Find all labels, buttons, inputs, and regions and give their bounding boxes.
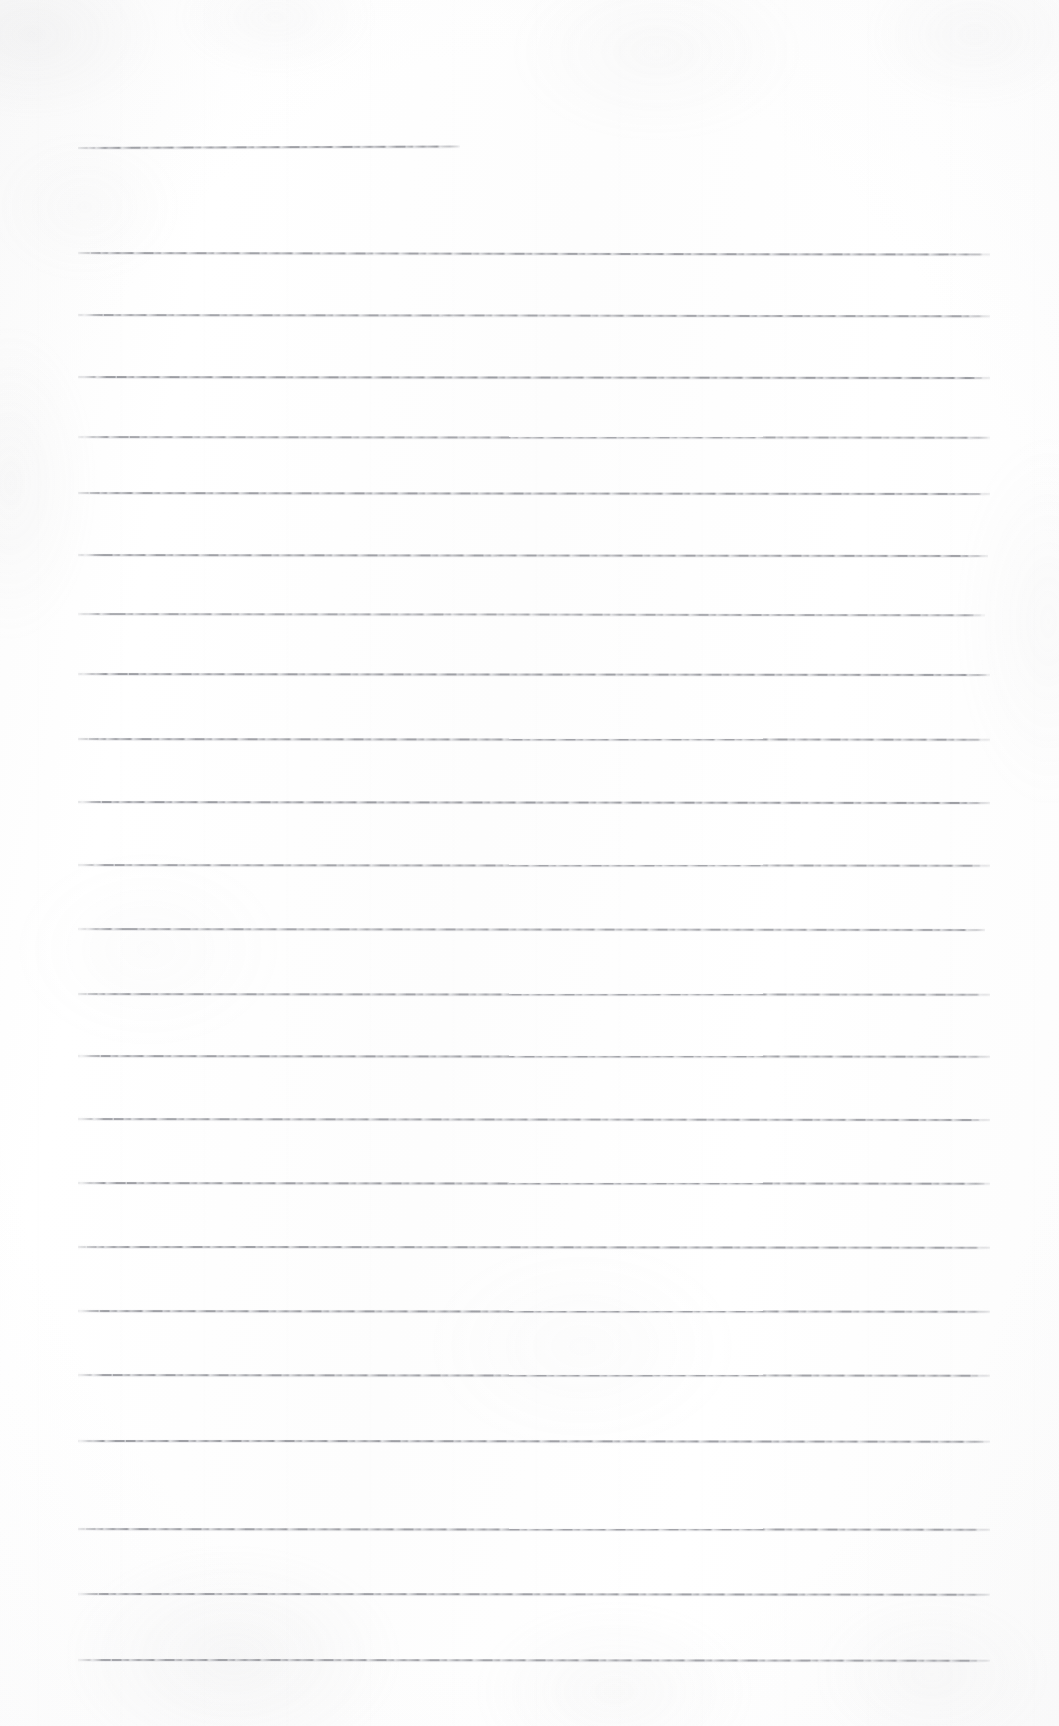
ruled-line bbox=[78, 1055, 990, 1058]
ruled-line bbox=[78, 1440, 990, 1443]
ruled-line bbox=[78, 314, 990, 317]
ruled-line bbox=[78, 1593, 990, 1596]
rule-left-fade bbox=[78, 1438, 104, 1444]
rule-right-fade bbox=[970, 313, 990, 319]
rule-left-fade bbox=[78, 1308, 104, 1314]
rule-left-fade bbox=[78, 1657, 104, 1663]
rule-left-fade bbox=[78, 1180, 104, 1186]
rule-right-fade bbox=[970, 491, 990, 497]
rule-left-fade bbox=[78, 312, 104, 318]
ruled-line bbox=[78, 613, 985, 616]
ruled-line bbox=[78, 554, 988, 557]
rule-left-fade bbox=[78, 862, 104, 868]
rule-right-fade bbox=[970, 375, 990, 381]
rule-right-fade bbox=[970, 1117, 990, 1123]
rule-left-fade bbox=[78, 552, 104, 558]
ruled-line bbox=[78, 1659, 990, 1662]
ruled-line bbox=[78, 492, 990, 495]
rule-right-fade bbox=[970, 672, 990, 678]
rule-right-fade bbox=[970, 863, 990, 869]
rule-left-fade bbox=[78, 671, 104, 677]
rule-right-fade bbox=[970, 737, 990, 743]
ruled-line bbox=[78, 993, 990, 996]
ruled-line bbox=[78, 376, 990, 379]
rule-left-fade bbox=[78, 1244, 104, 1250]
rule-left-fade bbox=[78, 250, 104, 256]
rule-right-fade bbox=[970, 1054, 990, 1060]
rule-left-fade bbox=[78, 1372, 104, 1378]
rule-left-fade bbox=[78, 490, 104, 496]
rule-right-fade bbox=[970, 1658, 990, 1664]
ruled-line bbox=[78, 928, 985, 931]
scanned-page bbox=[0, 0, 1059, 1726]
rule-left-fade bbox=[78, 1526, 104, 1532]
rule-left-fade bbox=[78, 799, 104, 805]
rule-right-fade bbox=[970, 1373, 990, 1379]
rule-right-fade bbox=[965, 927, 985, 933]
rule-left-fade bbox=[78, 1116, 104, 1122]
rule-left-fade bbox=[78, 1053, 104, 1059]
rule-right-fade bbox=[970, 1527, 990, 1533]
ruled-line bbox=[78, 738, 990, 741]
rule-left-fade bbox=[78, 736, 104, 742]
ruled-line bbox=[78, 1246, 990, 1249]
rule-right-fade bbox=[970, 992, 990, 998]
ruled-line bbox=[78, 1182, 990, 1185]
rule-right-fade bbox=[965, 612, 985, 618]
ruled-line bbox=[78, 864, 990, 867]
rule-left-fade bbox=[78, 145, 104, 151]
rule-left-fade bbox=[78, 611, 104, 617]
rule-right-fade bbox=[968, 553, 988, 559]
rule-left-fade bbox=[78, 1591, 104, 1597]
rule-left-fade bbox=[78, 434, 104, 440]
rule-right-fade bbox=[970, 1309, 990, 1315]
ruled-lines-layer bbox=[0, 0, 1059, 1726]
rule-left-fade bbox=[78, 991, 104, 997]
rule-right-fade bbox=[440, 144, 460, 150]
rule-left-fade bbox=[78, 926, 104, 932]
rule-right-fade bbox=[970, 1592, 990, 1598]
ruled-line bbox=[78, 1118, 990, 1121]
rule-right-fade bbox=[970, 435, 990, 441]
ruled-line bbox=[78, 801, 990, 804]
ruled-line bbox=[78, 436, 990, 439]
rule-right-fade bbox=[970, 800, 990, 806]
ruled-line bbox=[78, 252, 990, 256]
rule-right-fade bbox=[970, 1439, 990, 1445]
ruled-line bbox=[78, 673, 990, 676]
rule-right-fade bbox=[970, 1245, 990, 1251]
rule-right-fade bbox=[970, 1181, 990, 1187]
ruled-line bbox=[78, 1310, 990, 1313]
ruled-line bbox=[78, 1528, 990, 1531]
ruled-line-short bbox=[78, 146, 460, 149]
ruled-line bbox=[78, 1374, 990, 1377]
rule-right-fade bbox=[970, 252, 990, 258]
rule-left-fade bbox=[78, 374, 104, 380]
